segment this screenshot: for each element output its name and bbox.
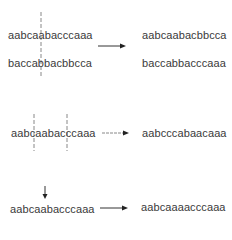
arrow-right-icon xyxy=(100,206,128,211)
inversion-input: aabcaabacccaaa xyxy=(11,127,96,139)
arrow-right-icon xyxy=(102,131,129,136)
inversion-output: aabcccabaacaaa xyxy=(142,127,227,139)
arrow-down-icon xyxy=(43,186,48,199)
crossover-child-2: baccabbacccaaa xyxy=(142,57,226,69)
crossover-parent-1: aabcaabacccaaa xyxy=(8,29,93,41)
mutation-output: aabcaaaacccaaa xyxy=(141,201,226,213)
crossover-parent-2: baccabbacbbcca xyxy=(8,57,92,69)
crossover-child-1: aabcaabacbbcca xyxy=(142,29,227,41)
mutation-input: aabcaabacccaaa xyxy=(10,203,95,215)
arrow-right-icon xyxy=(98,44,126,49)
